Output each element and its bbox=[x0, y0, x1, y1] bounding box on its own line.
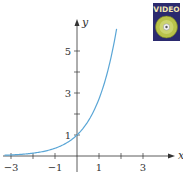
video-label: VIDEO bbox=[153, 5, 179, 14]
x-axis-arrow-icon bbox=[168, 154, 175, 159]
exp-curve bbox=[4, 29, 116, 155]
y-axis-label: y bbox=[81, 16, 89, 29]
y-tick-label: 3 bbox=[65, 88, 71, 99]
axes bbox=[3, 19, 175, 172]
video-dvd-icon[interactable]: VIDEO bbox=[153, 3, 180, 41]
x-tick-label: −1 bbox=[48, 162, 63, 173]
y-axis-arrow-icon bbox=[75, 19, 80, 26]
x-tick-label: −3 bbox=[4, 162, 19, 173]
x-axis-label: x bbox=[178, 149, 183, 162]
y-tick-label: 1 bbox=[65, 130, 71, 141]
x-tick-label: 3 bbox=[140, 162, 146, 173]
y-tick-label: 5 bbox=[65, 46, 71, 57]
x-tick-label: 1 bbox=[96, 162, 102, 173]
